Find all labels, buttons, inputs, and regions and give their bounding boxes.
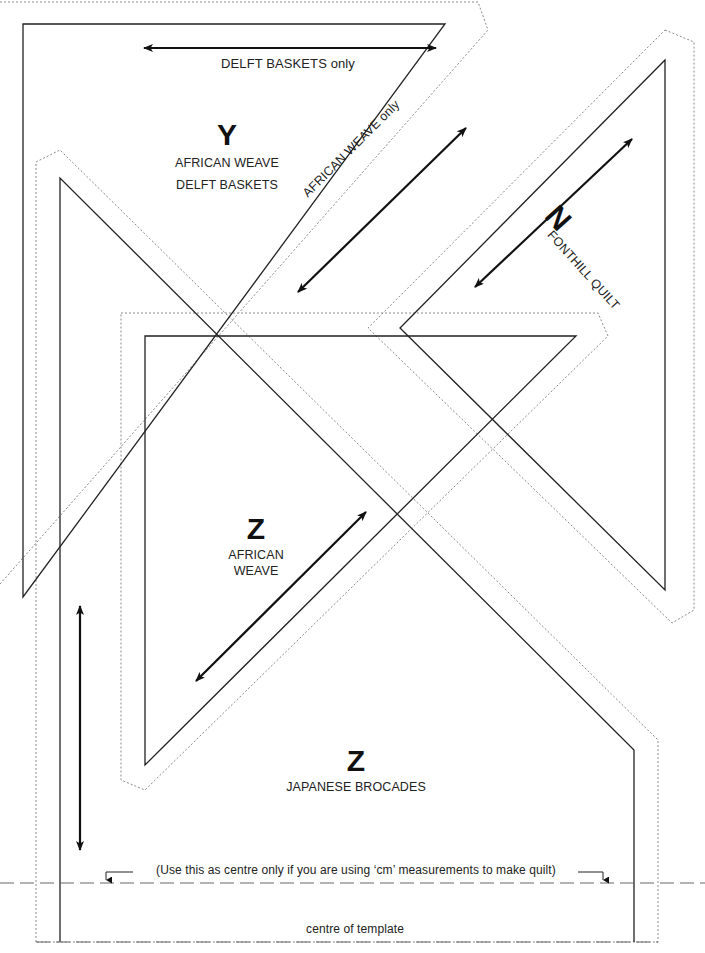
y-fabric-2: DELFT BASKETS (176, 178, 278, 192)
cm-note-right-leader (578, 872, 603, 880)
z-triangle-letter: Z (247, 514, 265, 544)
z-large-letter: Z (347, 746, 365, 776)
z-large-seam-outline (36, 150, 658, 942)
z-large-fabric: JAPANESE BROCADES (286, 780, 426, 794)
cm-note-left-leader (106, 872, 133, 880)
z-triangle-cut-outline (145, 336, 576, 765)
z-triangle-grain-arrow (196, 512, 366, 681)
z-triangle-fabric-1: AFRICAN (228, 548, 284, 562)
n-cut-outline (400, 60, 665, 590)
centre-of-template-label: centre of template (306, 922, 404, 936)
african-weave-grain-arrow (298, 128, 466, 292)
z-triangle-fabric-2: WEAVE (234, 564, 279, 578)
grain-arrows (80, 48, 632, 850)
y-piece-letter: Y (217, 120, 237, 150)
delft-grain-label: DELFT BASKETS only (221, 56, 355, 71)
cm-centre-note: (Use this as centre only if you are usin… (156, 863, 556, 877)
y-fabric-1: AFRICAN WEAVE (175, 156, 279, 170)
z-triangle-seam-outline (121, 313, 608, 790)
z-large-cut-outline (60, 178, 634, 942)
